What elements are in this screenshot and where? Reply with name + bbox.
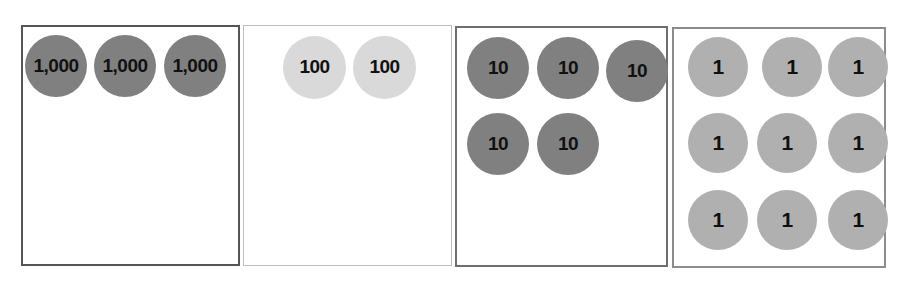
place-value-disk: 10 bbox=[606, 40, 668, 102]
place-value-disk: 1 bbox=[757, 190, 817, 250]
disk-label: 1 bbox=[852, 56, 863, 77]
place-value-disk: 1,000 bbox=[164, 35, 226, 97]
place-value-disk: 100 bbox=[353, 36, 416, 99]
disk-label: 10 bbox=[488, 58, 508, 77]
disk-label: 1 bbox=[781, 209, 792, 230]
disk-label: 1 bbox=[712, 56, 723, 77]
place-value-disk: 10 bbox=[467, 37, 529, 99]
disk-label: 10 bbox=[558, 58, 578, 77]
place-value-disk: 1,000 bbox=[94, 35, 156, 97]
hundreds-column bbox=[243, 25, 452, 266]
place-value-disk: 1 bbox=[762, 37, 822, 97]
disk-label: 10 bbox=[558, 134, 578, 153]
place-value-disk: 1 bbox=[757, 113, 817, 173]
place-value-disk: 1,000 bbox=[25, 35, 87, 97]
disk-label: 10 bbox=[627, 61, 647, 80]
disk-label: 1,000 bbox=[102, 56, 147, 75]
disk-label: 1 bbox=[712, 132, 723, 153]
place-value-disk: 1 bbox=[828, 190, 888, 250]
disk-label: 100 bbox=[369, 57, 399, 76]
place-value-disk: 10 bbox=[537, 113, 599, 175]
disk-label: 1 bbox=[781, 132, 792, 153]
place-value-disk: 1 bbox=[688, 113, 748, 173]
place-value-disk: 10 bbox=[467, 113, 529, 175]
place-value-chart: 1,0001,0001,0001001001010101010111111111 bbox=[0, 0, 904, 281]
disk-label: 1,000 bbox=[33, 56, 78, 75]
disk-label: 1 bbox=[852, 132, 863, 153]
disk-label: 1 bbox=[852, 209, 863, 230]
place-value-disk: 1 bbox=[828, 37, 888, 97]
disk-label: 1 bbox=[786, 56, 797, 77]
place-value-disk: 10 bbox=[537, 37, 599, 99]
disk-label: 1,000 bbox=[172, 56, 217, 75]
disk-label: 10 bbox=[488, 134, 508, 153]
disk-label: 100 bbox=[299, 57, 329, 76]
place-value-disk: 100 bbox=[283, 36, 346, 99]
place-value-disk: 1 bbox=[688, 190, 748, 250]
place-value-disk: 1 bbox=[688, 37, 748, 97]
disk-label: 1 bbox=[712, 209, 723, 230]
place-value-disk: 1 bbox=[828, 113, 888, 173]
